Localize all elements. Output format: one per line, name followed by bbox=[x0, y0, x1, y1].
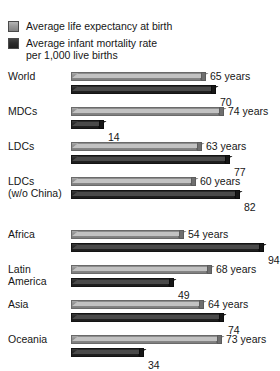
bar-end-cap bbox=[201, 72, 206, 81]
bar-front-face bbox=[71, 348, 139, 357]
bar-value-oceania-infant-mortality: 34 bbox=[148, 359, 160, 371]
group-separator bbox=[0, 206, 280, 224]
bar-value-latin-america-life-expectancy: 68 years bbox=[216, 263, 256, 275]
legend-swatch-dark-icon bbox=[8, 38, 19, 49]
legend-item-life-expectancy: Average life expectancy at birth bbox=[8, 20, 272, 33]
bars-world: 65 years 70 bbox=[66, 66, 280, 101]
bar-front-face bbox=[71, 300, 199, 309]
bar-top-bevel bbox=[72, 191, 242, 196]
bar-end-cap bbox=[219, 107, 224, 116]
bar-front-face bbox=[71, 190, 235, 199]
bar-end-cap bbox=[197, 142, 202, 151]
bars-mdcs: 74 years 14 bbox=[66, 101, 280, 136]
chart-row-africa: Africa 54 years 94 bbox=[0, 224, 280, 259]
bar-top-bevel bbox=[72, 279, 176, 284]
bar-front-face bbox=[71, 335, 217, 344]
bar-top-bevel bbox=[72, 266, 214, 271]
bar-end-cap bbox=[179, 230, 184, 239]
chart-row-oceania: Oceania 73 years 34 bbox=[0, 329, 280, 364]
bar-end-cap bbox=[99, 120, 104, 129]
chart-group-regions: Africa 54 years 94 La bbox=[0, 224, 280, 364]
bar-front-face bbox=[71, 107, 219, 116]
bar-top-bevel bbox=[72, 86, 218, 91]
legend-item-infant-mortality: Average infant mortality rate per 1,000 … bbox=[8, 37, 272, 62]
bar-value-world-life-expectancy: 65 years bbox=[210, 70, 250, 82]
bar-front-face bbox=[71, 265, 207, 274]
bars-ldcs-wo-china: 60 years 82 bbox=[66, 171, 280, 206]
bar-top-bevel bbox=[72, 336, 224, 341]
legend-label-life-expectancy: Average life expectancy at birth bbox=[26, 20, 172, 33]
category-label-ldcs: LDCs bbox=[8, 140, 66, 152]
bar-value-ldcs-wo-china-infant-mortality: 82 bbox=[244, 201, 256, 213]
bar-top-bevel bbox=[72, 314, 226, 319]
bar-top-bevel bbox=[72, 178, 198, 183]
bar-front-face bbox=[71, 155, 225, 164]
bars-latin-america: 68 years 49 bbox=[66, 259, 280, 294]
chart-legend: Average life expectancy at birth Average… bbox=[8, 20, 272, 66]
bar-end-cap bbox=[211, 85, 216, 94]
bar-top-bevel bbox=[72, 73, 208, 78]
bar-value-oceania-life-expectancy: 73 years bbox=[226, 333, 266, 345]
category-label-africa: Africa bbox=[8, 228, 66, 240]
bar-top-bevel bbox=[72, 108, 226, 113]
bar-end-cap bbox=[259, 243, 264, 252]
bar-value-mdcs-life-expectancy: 74 years bbox=[228, 105, 268, 117]
bar-end-cap bbox=[169, 278, 174, 287]
bar-end-cap bbox=[219, 313, 224, 322]
bar-front-face bbox=[71, 278, 169, 287]
bar-top-bevel bbox=[72, 349, 146, 354]
legend-label-infant-mortality: Average infant mortality rate per 1,000 … bbox=[26, 37, 157, 62]
chart-row-latin-america: Latin America 68 years 49 bbox=[0, 259, 280, 294]
category-label-ldcs-wo-china: LDCs (w/o China) bbox=[8, 175, 66, 199]
chart-row-asia: Asia 64 years 74 bbox=[0, 294, 280, 329]
bar-end-cap bbox=[139, 348, 144, 357]
legend-swatch-light-icon bbox=[8, 21, 19, 32]
chart-row-ldcs: LDCs 63 years 77 bbox=[0, 136, 280, 171]
bar-chart: World 65 years 70 MDC bbox=[0, 66, 280, 364]
bar-end-cap bbox=[235, 190, 240, 199]
bar-end-cap bbox=[207, 265, 212, 274]
bar-top-bevel bbox=[72, 231, 186, 236]
chart-row-world: World 65 years 70 bbox=[0, 66, 280, 101]
bars-ldcs: 63 years 77 bbox=[66, 136, 280, 171]
chart-group-global: World 65 years 70 MDC bbox=[0, 66, 280, 206]
bars-asia: 64 years 74 bbox=[66, 294, 280, 329]
bar-front-face bbox=[71, 72, 201, 81]
bar-top-bevel bbox=[72, 244, 266, 249]
bar-front-face bbox=[71, 120, 99, 129]
bar-top-bevel bbox=[72, 156, 232, 161]
bar-value-asia-life-expectancy: 64 years bbox=[208, 298, 248, 310]
bar-front-face bbox=[71, 230, 179, 239]
category-label-oceania: Oceania bbox=[8, 333, 66, 345]
chart-row-mdcs: MDCs 74 years 14 bbox=[0, 101, 280, 136]
chart-row-ldcs-wo-china: LDCs (w/o China) 60 years 82 bbox=[0, 171, 280, 206]
category-label-world: World bbox=[8, 70, 66, 82]
bar-top-bevel bbox=[72, 143, 204, 148]
bar-front-face bbox=[71, 142, 197, 151]
bar-front-face bbox=[71, 85, 211, 94]
category-label-mdcs: MDCs bbox=[8, 105, 66, 117]
bar-end-cap bbox=[199, 300, 204, 309]
bar-front-face bbox=[71, 313, 219, 322]
bar-front-face bbox=[71, 243, 259, 252]
category-label-asia: Asia bbox=[8, 298, 66, 310]
bars-africa: 54 years 94 bbox=[66, 224, 280, 259]
bar-value-ldcs-wo-china-life-expectancy: 60 years bbox=[200, 175, 240, 187]
bars-oceania: 73 years 34 bbox=[66, 329, 280, 364]
category-label-latin-america: Latin America bbox=[8, 263, 66, 287]
bar-end-cap bbox=[225, 155, 230, 164]
bar-top-bevel bbox=[72, 301, 206, 306]
bar-end-cap bbox=[191, 177, 196, 186]
bar-front-face bbox=[71, 177, 191, 186]
bar-end-cap bbox=[217, 335, 222, 344]
bar-value-africa-life-expectancy: 54 years bbox=[188, 228, 228, 240]
bar-value-ldcs-life-expectancy: 63 years bbox=[206, 140, 246, 152]
